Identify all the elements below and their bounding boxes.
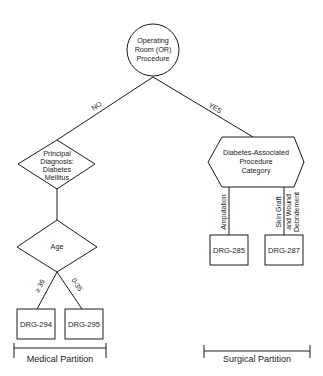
- yes-edge: [153, 77, 253, 137]
- medical-partition-bracket: Medical Partition: [14, 343, 106, 364]
- skin-graft-label-line-2: and Wound: [285, 194, 292, 230]
- outcome-drg-294: DRG-294: [17, 309, 55, 339]
- no-edge: [57, 77, 153, 140]
- outcome-drg-287: DRG-287: [265, 235, 303, 265]
- medical-partition-label: Medical Partition: [27, 354, 94, 364]
- age-0-35-label: 0-35: [70, 277, 84, 293]
- category-label-line-2: Procedure: [239, 157, 272, 166]
- category-label-line-3: Category: [241, 166, 271, 175]
- diagnosis-label-line-4: Mellitus: [45, 173, 70, 182]
- yes-edge-label: YES: [207, 101, 223, 114]
- drg-294-label: DRG-294: [20, 320, 52, 329]
- skin-graft-label-line-1: Skin Graft: [275, 196, 282, 227]
- root-node-or-procedure: Operating Room (OR) Procedure: [127, 24, 179, 76]
- surgical-partition-label: Surgical Partition: [223, 354, 291, 364]
- decision-tree-diagram: Operating Room (OR) Procedure NO YES Pri…: [0, 0, 323, 376]
- no-edge-label: NO: [90, 100, 103, 112]
- outcome-drg-285: DRG-285: [210, 235, 248, 265]
- amputation-label: Amputation: [220, 194, 228, 230]
- age-node: Age: [17, 220, 97, 272]
- drg-295-label: DRG-295: [68, 320, 100, 329]
- surgical-partition-bracket: Surgical Partition: [204, 345, 310, 364]
- root-label-line-2: Room (OR): [135, 45, 172, 54]
- skin-graft-label-line-3: Debridement: [293, 192, 300, 232]
- age-ge36-label: ≥ 36: [34, 278, 47, 293]
- diagnosis-node: Principal Diagnosis: Diabetes Mellitus: [18, 140, 95, 189]
- category-label-line-1: Diabetes-Associated: [223, 148, 289, 157]
- procedure-category-node: Diabetes-Associated Procedure Category: [208, 137, 304, 187]
- root-label-line-3: Procedure: [136, 54, 169, 63]
- age-label: Age: [51, 242, 64, 251]
- root-label-line-1: Operating: [137, 36, 169, 45]
- drg-287-label: DRG-287: [268, 246, 300, 255]
- outcome-drg-295: DRG-295: [65, 309, 103, 339]
- drg-285-label: DRG-285: [213, 246, 245, 255]
